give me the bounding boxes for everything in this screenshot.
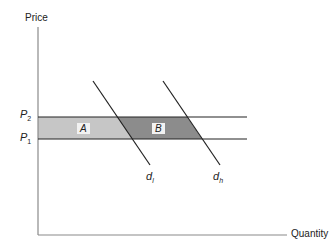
p1-subscript: 1 [27, 138, 31, 145]
demand-label-dh: dh [213, 170, 223, 184]
diagram-canvas [0, 0, 334, 251]
region-b-label: B [152, 123, 165, 134]
dl-subscript: l [152, 177, 154, 184]
p2-subscript: 2 [27, 115, 31, 122]
demand-label-dl: dl [146, 170, 154, 184]
y-axis-label: Price [25, 12, 48, 23]
price-label-p2: P2 [20, 108, 31, 122]
price-label-p1: P1 [20, 131, 31, 145]
dh-subscript: h [219, 177, 223, 184]
region-a-label: A [77, 123, 90, 134]
x-axis-label: Quantity [291, 228, 328, 239]
